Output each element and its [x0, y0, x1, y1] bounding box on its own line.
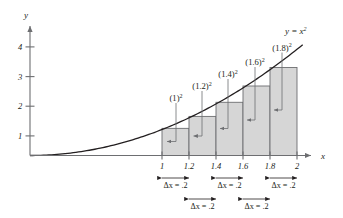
x-tick-label-1: 1	[160, 161, 164, 171]
riemann-sum-figure: y x 4 3 2 1 1 1.2 1.4 1.6 1.8 2 y = x2	[0, 0, 343, 218]
bar-label-4-base: (1.6)	[245, 57, 262, 67]
y-tick-label-2: 2	[18, 101, 23, 111]
bar-rect	[270, 68, 297, 156]
delta-x-label: Δx = .2	[163, 181, 187, 190]
bar-rect	[243, 86, 270, 156]
svg-text:y = x2: y = x2	[284, 26, 307, 36]
bar-label-3: (1.4)2	[218, 69, 237, 79]
bar-rect	[189, 116, 216, 155]
bar-label-5-exponent: 2	[289, 42, 292, 48]
x-tick-label-1.2: 1.2	[184, 161, 195, 171]
y-axis-label: y	[23, 10, 28, 20]
delta-x-brackets-row-2: Δx = .2 Δx = .2	[189, 199, 270, 211]
curve-equation-base: y = x	[284, 26, 304, 36]
delta-x-label: Δx = .2	[190, 202, 214, 211]
delta-x-label: Δx = .2	[244, 202, 268, 211]
delta-x-label: Δx = .2	[217, 181, 241, 190]
delta-x-label: Δx = .2	[271, 181, 295, 190]
bar-label-3-exponent: 2	[235, 69, 238, 75]
delta-x-brackets-row-1: Δx = .2 Δx = .2 Δx = .2	[162, 178, 297, 190]
bar-label-2-base: (1.2)	[192, 81, 209, 91]
bar-label-2: (1.2)2	[192, 81, 211, 91]
bar-label-1-base: (1)	[169, 93, 179, 103]
figure-svg: y x 4 3 2 1 1 1.2 1.4 1.6 1.8 2 y = x2	[0, 0, 343, 218]
y-tick-label-3: 3	[17, 72, 22, 82]
bar-rect	[162, 128, 189, 155]
y-tick-label-4: 4	[18, 42, 23, 52]
x-tick-label-1.6: 1.6	[238, 161, 249, 171]
bars-group	[162, 68, 297, 156]
bar-label-2-exponent: 2	[209, 81, 212, 87]
bar-label-5-base: (1.8)	[272, 43, 289, 53]
bar-label-5: (1.8)2	[272, 42, 291, 52]
x-tick-label-1.4: 1.4	[211, 161, 222, 171]
x-tick-label-1.8: 1.8	[265, 161, 276, 171]
x-tick-label-2: 2	[295, 161, 300, 171]
bar-label-1: (1)2	[169, 93, 182, 103]
bar-label-3-base: (1.4)	[218, 69, 235, 79]
bar-label-4-exponent: 2	[262, 57, 265, 63]
bar-label-4: (1.6)2	[245, 57, 264, 67]
curve-equation-exponent: 2	[304, 26, 307, 32]
x-axis-label: x	[320, 151, 325, 161]
curve-equation-label: y = x2	[284, 26, 307, 36]
bar-label-1-exponent: 2	[180, 93, 183, 99]
y-tick-label-1: 1	[18, 131, 22, 141]
